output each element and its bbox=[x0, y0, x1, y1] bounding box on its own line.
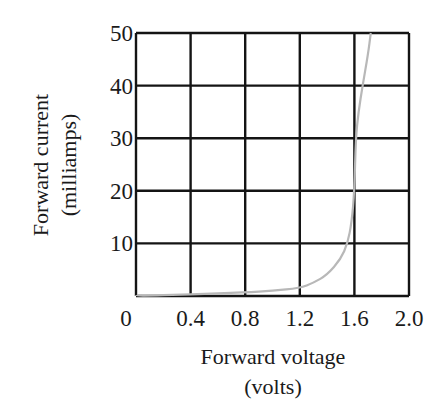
y-axis-title: Forward current bbox=[28, 94, 53, 236]
y-tick-label: 20 bbox=[110, 179, 133, 204]
x-axis-title: Forward voltage bbox=[201, 344, 346, 369]
y-axis-label: Forward current bbox=[28, 94, 53, 236]
iv-curve-line bbox=[136, 33, 371, 296]
y-axis-unit-label: (milliamps) bbox=[56, 114, 81, 217]
x-tick-label: 0.4 bbox=[176, 306, 205, 331]
x-axis-ticks: 00.40.81.21.62.0 bbox=[120, 306, 423, 331]
y-tick-label: 50 bbox=[110, 21, 133, 46]
y-tick-label: 40 bbox=[110, 74, 133, 99]
x-tick-label: 2.0 bbox=[395, 306, 424, 331]
x-tick-label: 1.6 bbox=[340, 306, 369, 331]
y-axis-unit: (milliamps) bbox=[56, 114, 81, 217]
diode-iv-chart: 1020304050 00.40.81.21.62.0 Forward curr… bbox=[0, 0, 442, 416]
x-tick-label: 1.2 bbox=[285, 306, 314, 331]
y-tick-label: 30 bbox=[110, 126, 133, 151]
y-axis-ticks: 1020304050 bbox=[110, 21, 133, 256]
x-tick-label: 0 bbox=[120, 306, 132, 331]
x-axis-unit: (volts) bbox=[244, 374, 301, 399]
y-tick-label: 10 bbox=[110, 231, 133, 256]
grid-lines bbox=[136, 33, 409, 296]
x-tick-label: 0.8 bbox=[231, 306, 260, 331]
